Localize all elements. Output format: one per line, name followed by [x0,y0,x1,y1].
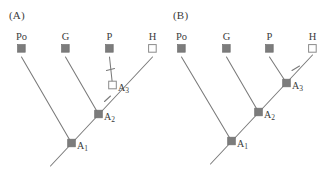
node-label-a2: A2 [104,111,115,125]
terminal-square-g [62,45,70,53]
node-label-a3-subscript: 3 [299,84,303,93]
node-label-a1: A1 [77,140,88,154]
terminal-square-h [149,45,157,53]
node-label-a3-subscript: 3 [125,86,129,95]
taxon-label-po: Po [176,31,187,42]
node-square-a1 [228,137,236,145]
panel-a: (A) [0,0,165,179]
taxon-label-g: G [223,31,231,42]
terminal-square-p [266,45,274,53]
node-label-a3: A3 [292,80,303,94]
node-label-a2: A2 [264,109,275,123]
terminal-square-p [106,45,114,53]
node-label-a2-subscript: 2 [271,113,275,122]
node-square-a2 [95,110,103,118]
taxon-label-po: Po [16,31,27,42]
node-square-a3 [283,79,291,87]
terminal-square-h [309,45,317,53]
branch-g [66,57,99,114]
terminal-square-po [18,45,26,53]
node-label-a3: A3 [118,82,129,96]
node-label-a2-subscript: 2 [111,115,115,124]
terminal-square-g [223,45,231,53]
terminal-square-po [178,45,186,53]
taxon-label-p: P [267,31,273,42]
branch-po [22,57,72,143]
node-label-a1: A1 [237,138,248,152]
branch-po [182,57,232,141]
branch-g [227,57,259,112]
node-square-a3 [109,81,117,89]
taxon-label-h: H [149,31,157,42]
phylogeny-figure: (A) [0,0,329,179]
node-square-a1 [68,139,76,147]
node-square-a2 [255,108,263,116]
node-label-a1-subscript: 1 [84,144,88,153]
taxon-label-h: H [309,31,317,42]
panel-b: (B) Po G P H A1 [164,0,329,179]
taxon-label-g: G [62,31,70,42]
taxon-label-p: P [107,31,113,42]
node-label-a1-subscript: 1 [244,142,248,151]
panel-b-tree-graphic [164,0,329,179]
tick-on-backbone-a2-a3 [105,96,111,102]
